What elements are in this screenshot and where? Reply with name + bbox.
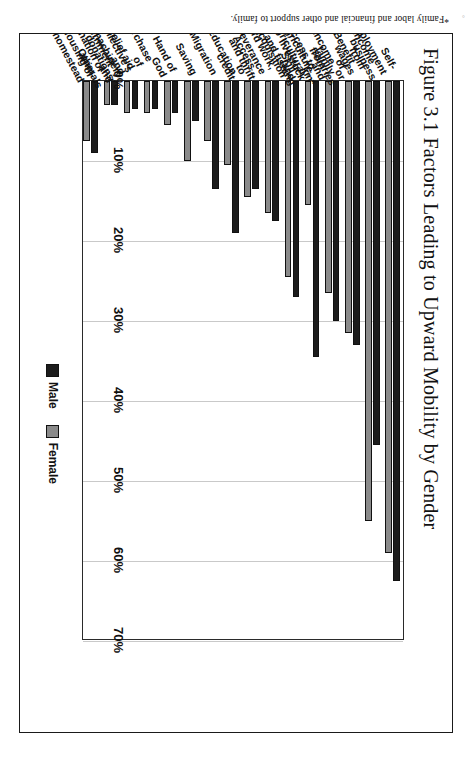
category-label-layer: Self-employment businessIncome from wage… — [82, 34, 404, 78]
legend-swatch-male-icon — [47, 364, 60, 377]
figure-frame: Figure 3.1 Factors Leading to Upward Mob… — [19, 33, 453, 733]
scanned-page-rotated: Figure 3.1 Factors Leading to Upward Mob… — [0, 0, 471, 761]
bar-male — [212, 81, 219, 189]
legend-label: Female — [46, 443, 60, 484]
page-corner-mark: ° — [462, 10, 465, 19]
bar-male — [353, 81, 360, 345]
axis-tick-label: 70% — [111, 627, 126, 653]
bar-male — [313, 81, 320, 357]
bar-female — [265, 81, 272, 213]
gridline — [83, 561, 403, 562]
axis-tick-label: 40% — [111, 387, 126, 413]
bar-female — [325, 81, 332, 293]
plot-area — [82, 80, 404, 640]
bar-male — [152, 81, 159, 109]
legend-item: Male — [46, 364, 60, 409]
bar-female — [285, 81, 292, 277]
axis-tick-label: 30% — [111, 307, 126, 333]
bar-male — [373, 81, 380, 445]
bar-male — [252, 81, 259, 189]
bar-female — [164, 81, 171, 125]
gridline — [83, 481, 403, 482]
bar-male — [393, 81, 400, 581]
bar-female — [83, 81, 90, 141]
chart-legend: MaleFemale — [46, 364, 60, 484]
figure-footnote: *Family labor and financial and other su… — [231, 14, 449, 24]
bar-male — [272, 81, 279, 221]
bar-male — [333, 81, 340, 321]
bar-male — [293, 81, 300, 297]
axis-tick-label: 0% — [111, 71, 126, 90]
axis-tick-label: 10% — [111, 147, 126, 173]
bar-female — [345, 81, 352, 333]
axis-tick-label: 60% — [111, 547, 126, 573]
bar-female — [244, 81, 251, 197]
chart-title: Figure 3.1 Factors Leading to Upward Mob… — [419, 48, 442, 529]
chart-landscape-canvas: Figure 3.1 Factors Leading to Upward Mob… — [18, 34, 452, 732]
bar-male — [91, 81, 98, 153]
legend-swatch-female-icon — [47, 425, 60, 438]
bar-female — [224, 81, 231, 165]
bar-female — [144, 81, 151, 113]
figure-rotation-wrapper: Figure 3.1 Factors Leading to Upward Mob… — [18, 34, 452, 732]
bar-female — [305, 81, 312, 205]
bar-male — [192, 81, 199, 121]
legend-item: Female — [46, 425, 60, 484]
bar-male — [172, 81, 179, 113]
bar-female — [385, 81, 392, 553]
axis-tick-label: 20% — [111, 227, 126, 253]
legend-label: Male — [46, 382, 60, 409]
bar-female — [184, 81, 191, 161]
bar-male — [132, 81, 139, 109]
gridline — [83, 641, 403, 642]
gridline — [83, 401, 403, 402]
bar-female — [204, 81, 211, 141]
bar-female — [365, 81, 372, 521]
bar-male — [232, 81, 239, 233]
axis-tick-label: 50% — [111, 467, 126, 493]
